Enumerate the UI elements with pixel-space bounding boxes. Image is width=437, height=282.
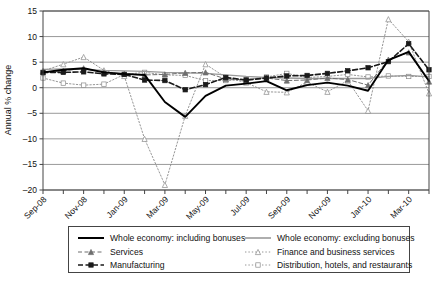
data-point-marker [89,263,93,267]
y-tick-label: 5 [32,57,37,67]
legend-label: Finance and business services [277,247,395,257]
legend-label: Manufacturing [110,260,165,270]
legend-label: Services [110,247,143,257]
data-point-marker [183,88,187,92]
data-point-marker [285,74,289,78]
y-axis-title: Annual % change [3,65,13,136]
y-tick-label: –5 [28,108,38,118]
y-tick-label: –15 [23,159,37,169]
legend-label: Distribution, hotels, and restaurants [277,260,412,270]
data-point-marker [264,76,268,80]
data-point-marker [61,81,65,85]
data-point-marker [163,78,167,82]
data-point-marker [203,82,207,86]
data-point-marker [406,42,410,46]
y-tick-label: 15 [28,6,38,16]
line-chart: 151050–5–10–15–20 Sep-08Nov-08Jan-09Mar-… [0,0,437,282]
legend-label: Whole economy: excluding bonuses [277,233,415,243]
data-point-marker [256,263,260,267]
data-point-marker [81,70,85,74]
data-point-marker [305,73,309,77]
y-tick-label: –10 [23,134,37,144]
data-point-marker [325,71,329,75]
y-tick-label: 0 [32,83,37,93]
data-point-marker [346,69,350,73]
data-point-marker [244,78,248,82]
y-tick-label: –20 [23,185,37,195]
data-point-marker [203,78,207,82]
chart-root: 151050–5–10–15–20 Sep-08Nov-08Jan-09Mar-… [0,0,437,282]
data-point-marker [366,66,370,70]
data-point-marker [102,82,106,86]
data-point-marker [81,83,85,87]
data-point-marker [224,75,228,79]
legend-label: Whole economy: including bonuses [110,233,245,243]
y-tick-label: 10 [28,32,38,42]
